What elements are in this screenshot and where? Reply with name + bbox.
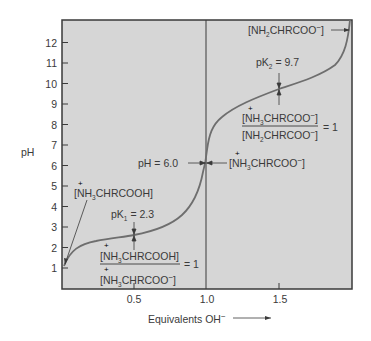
svg-text:12: 12 xyxy=(45,37,57,49)
svg-text:+: + xyxy=(104,265,109,274)
svg-text:= 1: = 1 xyxy=(323,121,338,133)
ph-6-label: pH = 6.0 xyxy=(138,157,178,169)
svg-text:10: 10 xyxy=(45,78,57,90)
y-axis-label: pH xyxy=(21,146,34,158)
svg-text:2: 2 xyxy=(51,242,57,254)
svg-text:3: 3 xyxy=(51,221,57,233)
titration-chart: 1 2 3 4 5 6 7 8 9 10 11 12 0.5 1.0 1.5 p… xyxy=(0,0,371,341)
y-axis-tick-labels: 1 2 3 4 5 6 7 8 9 10 11 12 xyxy=(45,37,57,275)
svg-text:5: 5 xyxy=(51,180,57,192)
svg-text:[NH3CHRCOOH]: [NH3CHRCOOH] xyxy=(74,187,153,201)
x-axis-label: Equivalents OH− xyxy=(148,312,271,325)
x-axis-tick-labels: 0.5 1.0 1.5 xyxy=(127,293,288,305)
svg-text:1.5: 1.5 xyxy=(273,293,288,305)
svg-text:[NH2CHRCOO−]: [NH2CHRCOO−] xyxy=(242,128,318,143)
svg-text:1.0: 1.0 xyxy=(200,293,215,305)
svg-text:[NH3CHRCOO−]: [NH3CHRCOO−] xyxy=(100,273,176,288)
svg-text:9: 9 xyxy=(51,98,57,110)
svg-text:Equivalents OH−: Equivalents OH− xyxy=(148,312,226,325)
svg-text:7: 7 xyxy=(51,139,57,151)
svg-text:[NH2CHRCOO−]: [NH2CHRCOO−] xyxy=(248,23,324,38)
svg-text:[NH3CHRCOO−]: [NH3CHRCOO−] xyxy=(242,111,318,126)
svg-text:6: 6 xyxy=(51,160,57,172)
svg-text:0.5: 0.5 xyxy=(127,293,142,305)
pk2-label: pK2 = 9.7 xyxy=(256,56,299,70)
svg-text:+: + xyxy=(104,241,109,250)
pk1-label: pK1 = 2.3 xyxy=(111,208,154,222)
svg-text:4: 4 xyxy=(51,201,57,213)
svg-text:= 1: = 1 xyxy=(184,258,199,270)
svg-text:11: 11 xyxy=(46,57,57,69)
svg-text:1: 1 xyxy=(51,262,57,274)
svg-text:[NH3CHRCOO−]: [NH3CHRCOO−] xyxy=(229,156,305,171)
svg-text:8: 8 xyxy=(51,119,57,131)
svg-text:[NH3CHRCOOH]: [NH3CHRCOOH] xyxy=(100,250,179,264)
